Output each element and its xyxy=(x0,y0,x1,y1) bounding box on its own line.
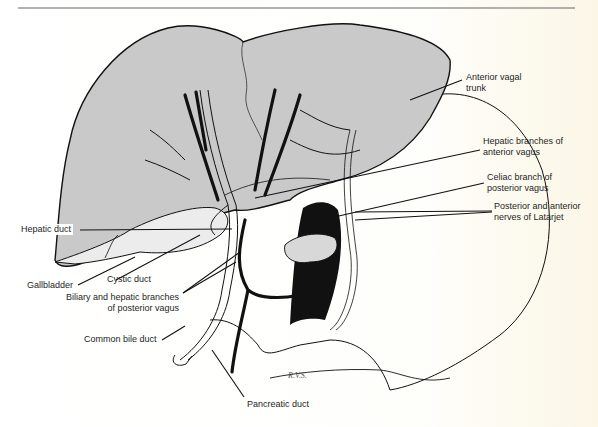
label-line: posterior vagus xyxy=(487,183,552,194)
label-cystic-duct: Cystic duct xyxy=(107,274,151,285)
label-line: Common bile duct xyxy=(84,334,157,345)
label-line: Hepatic branches of xyxy=(483,136,563,147)
celiac-region xyxy=(290,202,341,325)
label-pancreatic-duct: Pancreatic duct xyxy=(247,399,309,410)
label-line: anterior vagus xyxy=(483,147,563,158)
label-line: Anterior vagal xyxy=(466,72,522,83)
label-line: Cystic duct xyxy=(107,274,151,285)
label-line: Gallbladder xyxy=(27,280,73,291)
label-line: trunk xyxy=(466,83,522,94)
label-line: nerves of Latarjet xyxy=(494,212,581,223)
label-line: Pancreatic duct xyxy=(247,399,309,410)
label-line: of posterior vagus xyxy=(66,303,179,314)
label-latarjet-nerves: Posterior and anterior nerves of Latarje… xyxy=(494,201,581,223)
label-celiac-branch-posterior-vagus: Celiac branch of posterior vagus xyxy=(487,172,552,194)
label-line: Celiac branch of xyxy=(487,172,552,183)
label-line: Hepatic duct xyxy=(21,224,71,235)
label-line: Biliary and hepatic branches xyxy=(66,292,179,303)
artist-signature: R.V.S. xyxy=(287,371,307,380)
label-line: Posterior and anterior xyxy=(494,201,581,212)
label-gallbladder: Gallbladder xyxy=(27,280,73,291)
label-hepatic-duct: Hepatic duct xyxy=(19,224,73,235)
label-common-bile-duct: Common bile duct xyxy=(84,334,157,345)
label-hepatic-branches-anterior-vagus: Hepatic branches of anterior vagus xyxy=(483,136,563,158)
label-anterior-vagal-trunk: Anterior vagal trunk xyxy=(466,72,522,94)
label-biliary-hepatic-branches: Biliary and hepatic branches of posterio… xyxy=(66,292,179,314)
